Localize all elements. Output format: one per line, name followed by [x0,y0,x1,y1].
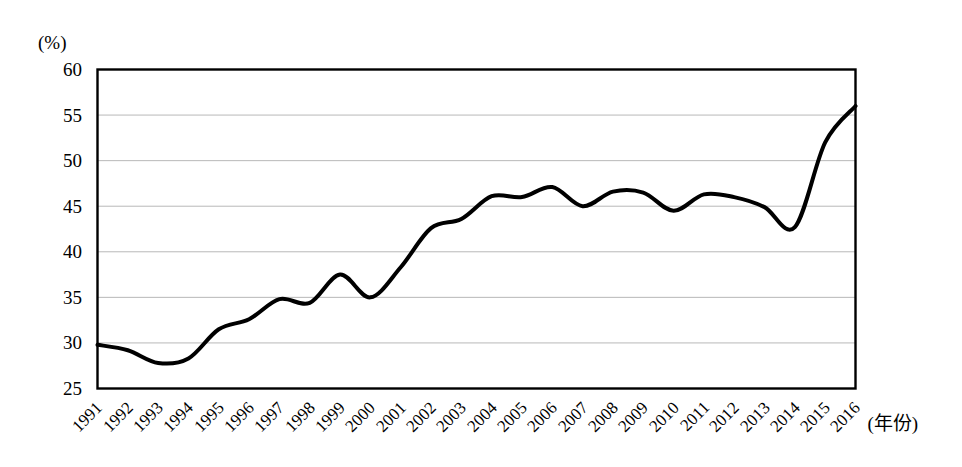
chart-container: (%) 6055504540353025 1991199219931994199… [0,0,962,467]
y-axis-tick-label: 55 [36,106,82,125]
plot-area [0,0,962,467]
y-axis-tick-label: 60 [36,60,82,79]
y-axis-tick-label: 50 [36,151,82,170]
y-axis-tick-label: 25 [36,379,82,398]
y-axis-tick-label: 35 [36,288,82,307]
y-axis-tick-label: 40 [36,242,82,261]
x-axis-title: (年份) [868,414,919,433]
data-series-line [98,106,856,364]
y-axis-unit-label: (%) [38,33,66,52]
y-axis-tick-label: 30 [36,333,82,352]
y-axis-tick-label: 45 [36,197,82,216]
plot-frame [98,70,856,389]
